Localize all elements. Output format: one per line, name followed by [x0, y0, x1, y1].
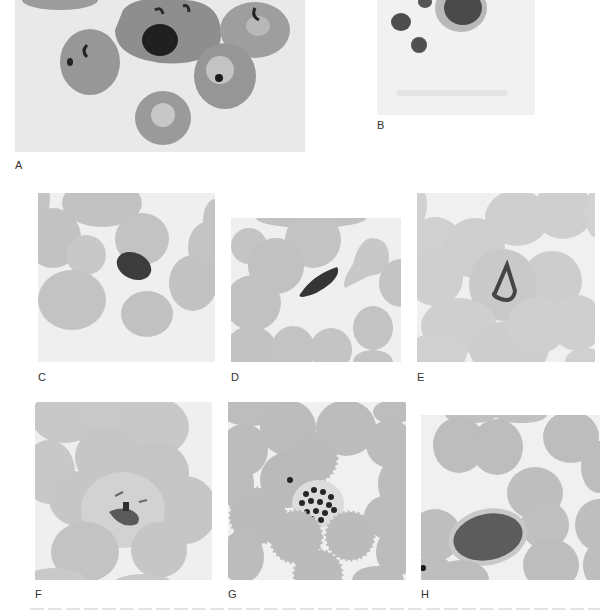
panel-a-image	[15, 0, 305, 152]
blood-smear-image	[15, 0, 305, 152]
panel-label-h: H	[421, 589, 429, 600]
panel-f-image	[35, 402, 212, 580]
figure-caption-clipped	[30, 606, 600, 612]
panel-h-image	[421, 415, 600, 580]
panel-label-e: E	[417, 372, 424, 383]
panel-label-a: A	[15, 160, 22, 171]
blood-smear-image	[421, 415, 600, 580]
panel-label-f: F	[35, 589, 42, 600]
panel-label-b: B	[377, 120, 384, 131]
blood-smear-image	[228, 402, 406, 580]
blood-smear-image	[35, 402, 212, 580]
panel-b-image	[377, 0, 535, 115]
panel-label-c: C	[38, 372, 46, 383]
panel-e-image	[417, 193, 595, 362]
panel-c-image	[38, 193, 215, 362]
blood-smear-image	[231, 218, 401, 362]
panel-label-g: G	[228, 589, 237, 600]
blood-smear-image	[377, 0, 535, 115]
panel-g-image	[228, 402, 406, 580]
blood-smear-image	[38, 193, 215, 362]
panel-d-image	[231, 218, 401, 362]
blood-smear-image	[417, 193, 595, 362]
panel-label-d: D	[231, 372, 239, 383]
caption-text-fragment	[30, 608, 600, 610]
